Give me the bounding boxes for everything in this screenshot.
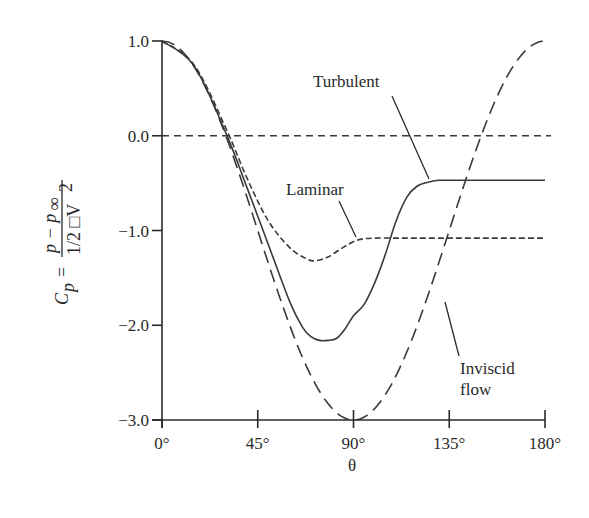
annotation-inviscid: Inviscid flow — [445, 302, 515, 399]
annotation-laminar: Laminar — [286, 180, 356, 237]
x-ticks: 0°45°90°135°180° — [154, 410, 561, 453]
inviscid-leader-line — [445, 302, 459, 356]
inviscid-label-line2: flow — [460, 380, 492, 399]
y-tick-label: −1.0 — [118, 222, 149, 241]
y-label-numerator-sub: ∞ — [44, 197, 64, 210]
y-tick-label: 0.0 — [128, 127, 149, 146]
y-ticks: 1.00.0−1.0−2.0−3.0 — [118, 32, 162, 430]
y-label-denominator: 1/2 □V — [64, 204, 84, 255]
y-label-equals: = — [52, 267, 72, 277]
laminar-leader-line — [339, 201, 356, 237]
x-tick-label: 180° — [529, 434, 561, 453]
turbulent-leader-line — [392, 96, 429, 179]
x-tick-label: 90° — [342, 434, 366, 453]
y-label-numerator: p − p — [40, 214, 60, 255]
y-tick-label: 1.0 — [128, 32, 149, 51]
y-axis-label: C p = p − p ∞ 1/2 □V 2 — [40, 180, 84, 305]
y-label-lhs-sub: p — [58, 283, 78, 294]
x-tick-label: 45° — [246, 434, 270, 453]
y-label-lhs: C — [52, 292, 72, 305]
x-axis-label: θ — [348, 456, 356, 475]
y-tick-label: −3.0 — [118, 411, 149, 430]
cp-vs-theta-chart: C p = p − p ∞ 1/2 □V 2 1.00.0−1.0−2.0−3.… — [0, 0, 589, 518]
y-tick-label: −2.0 — [118, 316, 149, 335]
y-label-denominator-sup: 2 — [56, 183, 76, 192]
inviscid-label-line1: Inviscid — [460, 359, 515, 378]
x-tick-label: 0° — [154, 434, 169, 453]
turbulent-label: Turbulent — [313, 72, 380, 91]
annotation-turbulent: Turbulent — [313, 72, 429, 179]
laminar-label: Laminar — [286, 180, 344, 199]
x-tick-label: 135° — [433, 434, 465, 453]
